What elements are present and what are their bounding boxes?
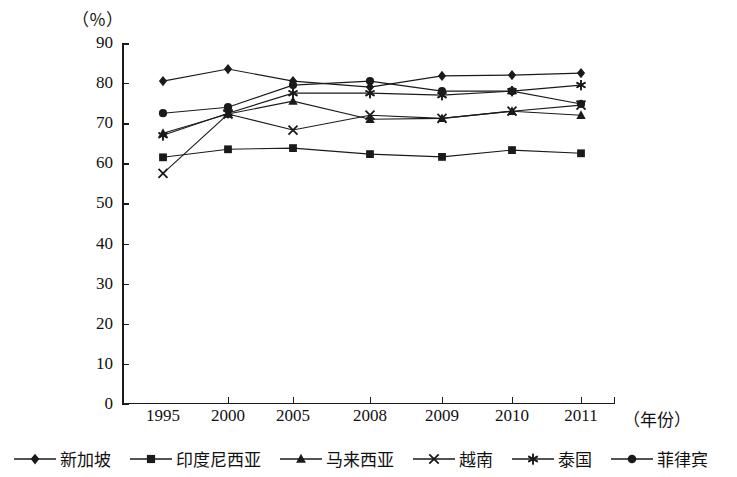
y-axis-tick-label: 0 [105, 394, 114, 414]
x-axis-tick-label: 2000 [211, 406, 245, 426]
circle-marker [366, 77, 374, 85]
y-axis-tick-label: 30 [96, 274, 113, 294]
square-marker [289, 144, 297, 152]
circle-marker [438, 87, 446, 95]
y-axis-tick-label: 20 [96, 314, 113, 334]
square-marker [147, 454, 155, 462]
x-axis-tick-label: 2008 [353, 406, 387, 426]
legend-item-0[interactable]: 新加坡 [12, 446, 111, 471]
cross-marker [158, 169, 167, 178]
circle-marker [577, 100, 585, 108]
square-marker [366, 150, 374, 158]
square-marker [159, 153, 167, 161]
y-axis-tick-label: 70 [96, 113, 113, 133]
square-marker [577, 149, 585, 157]
cross-marker [288, 126, 297, 135]
legend-marker [411, 451, 457, 467]
legend-marker [128, 451, 174, 467]
series-layer [122, 43, 615, 404]
legend-marker [12, 451, 58, 467]
x-axis-tick-label: 2011 [564, 406, 597, 426]
legend-label: 菲律宾 [657, 446, 708, 471]
legend-marker [609, 451, 655, 467]
diamond-marker [577, 68, 585, 78]
circle-marker [508, 87, 516, 95]
y-axis-tick-label: 10 [96, 354, 113, 374]
diamond-marker [224, 64, 232, 74]
legend-marker [510, 451, 556, 467]
y-axis-tick-label: 80 [96, 73, 113, 93]
y-axis-unit-label: （％） [72, 6, 123, 31]
diamond-marker [159, 76, 167, 86]
circle-marker [628, 454, 637, 463]
legend-label: 马来西亚 [326, 446, 394, 471]
square-marker [438, 153, 446, 161]
y-axis-tick-mark [122, 404, 129, 405]
x-axis-unit-label: （年份） [623, 406, 691, 431]
legend-label: 印度尼西亚 [176, 446, 261, 471]
diamond-marker [31, 453, 40, 464]
y-axis-tick-label: 50 [96, 193, 113, 213]
x-axis-tick-label: 2005 [276, 406, 310, 426]
legend-item-2[interactable]: 马来西亚 [278, 446, 394, 471]
legend-label: 越南 [459, 446, 493, 471]
legend-item-5[interactable]: 菲律宾 [609, 446, 708, 471]
legend-label: 泰国 [558, 446, 592, 471]
diamond-marker [508, 70, 516, 80]
x-axis-tick-label: 2009 [425, 406, 459, 426]
legend-item-1[interactable]: 印度尼西亚 [128, 446, 261, 471]
legend-marker [278, 451, 324, 467]
legend-item-3[interactable]: 越南 [411, 446, 493, 471]
square-marker [508, 146, 516, 154]
chart-legend: 新加坡印度尼西亚马来西亚越南泰国菲律宾 [12, 446, 725, 471]
series-square [159, 144, 585, 161]
circle-marker [224, 103, 232, 111]
x-axis-tick-label: 2010 [495, 406, 529, 426]
legend-item-4[interactable]: 泰国 [510, 446, 592, 471]
y-axis-tick-label: 40 [96, 234, 113, 254]
x-axis-tick-label: 1995 [146, 406, 180, 426]
circle-marker [289, 81, 297, 89]
legend-label: 新加坡 [60, 446, 111, 471]
y-axis-tick-label: 60 [96, 153, 113, 173]
circle-marker [159, 109, 167, 117]
diamond-marker [438, 71, 446, 81]
y-axis-tick-label: 90 [96, 33, 113, 53]
square-marker [224, 145, 232, 153]
plot-area: 0102030405060708090 19952000200520082009… [122, 43, 615, 404]
line-chart: （％） 0102030405060708090 1995200020052008… [0, 0, 737, 477]
